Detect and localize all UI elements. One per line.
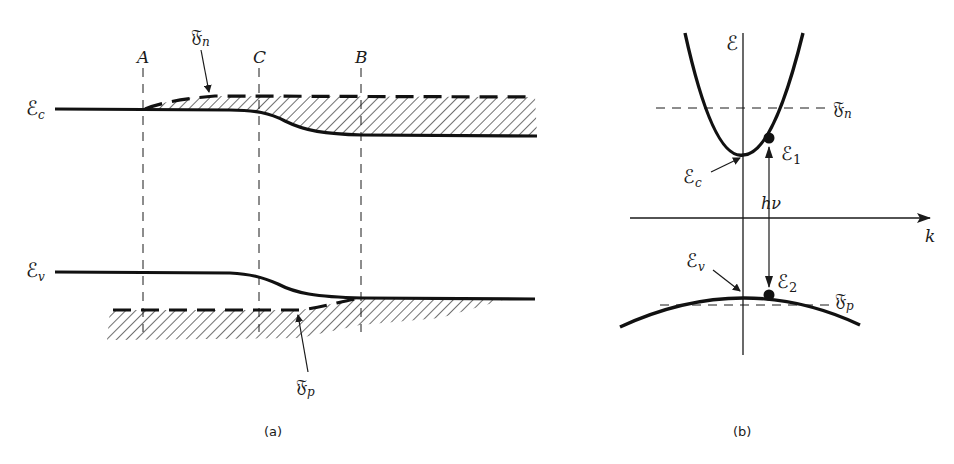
electron-population-hatch (148, 96, 537, 135)
fn-pointer-arrow (201, 50, 209, 92)
label-e2: ℰ2 (777, 270, 797, 295)
label-fp-a: 𝔉p (296, 375, 315, 399)
caption-a: (a) (264, 424, 282, 439)
label-e1: ℰ1 (781, 142, 801, 167)
label-fp-b: 𝔉p (835, 289, 854, 313)
valence-band-curve (620, 298, 860, 327)
label-energy-axis: ℰ (726, 31, 738, 55)
label-fn-b: 𝔉n (833, 97, 852, 121)
ec-pointer-arrow (711, 158, 740, 172)
panel-a: A C B ℰc ℰv 𝔉n 𝔉p (a) (26, 25, 537, 439)
label-ev-b: ℰv (686, 249, 705, 274)
hole-population-hatch (107, 298, 510, 340)
position-label-c: C (253, 47, 266, 67)
label-k-axis: k (925, 226, 935, 246)
label-photon-energy: hν (761, 194, 781, 213)
state-e2-dot (764, 290, 775, 301)
ev-pointer-arrow (713, 270, 740, 291)
label-ec-b: ℰc (683, 165, 702, 190)
caption-b: (b) (733, 424, 751, 439)
label-ev-a: ℰv (26, 258, 45, 284)
transition-arrowhead-up (765, 146, 773, 158)
conduction-band-parabola (685, 33, 803, 155)
transition-arrowhead-down (765, 276, 773, 288)
panel-b: ℰ k 𝔉n ℰ1 ℰc hν 𝔉p (620, 31, 935, 439)
position-label-a: A (135, 47, 149, 67)
state-e1-dot (764, 133, 775, 144)
label-ec-a: ℰc (26, 96, 45, 122)
valence-band-edge (55, 272, 535, 299)
label-fn-a: 𝔉n (191, 25, 210, 49)
band-diagram-figure: A C B ℰc ℰv 𝔉n 𝔉p (a) ℰ (0, 0, 954, 464)
position-label-b: B (354, 47, 368, 67)
